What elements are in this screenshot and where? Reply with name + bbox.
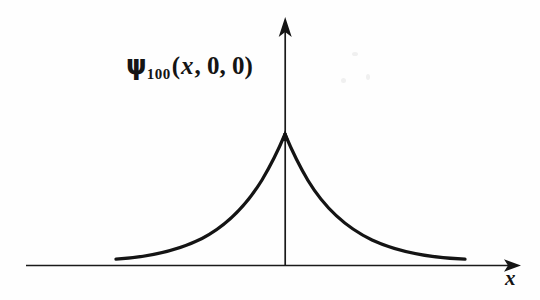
psi-symbol: ψ (126, 50, 147, 80)
psi-subscript: 100 (147, 66, 171, 82)
wavefunction-curve-left (116, 134, 285, 259)
psi-arg-variable-x: x (181, 52, 194, 79)
x-axis-label: x (505, 268, 516, 289)
wavefunction-plot (0, 0, 540, 300)
wavefunction-curve-group (116, 132, 465, 260)
psi-arg-open-paren: ( (172, 52, 180, 79)
x-axis-group (26, 259, 521, 272)
psi-arg-remainder: , 0, 0) (194, 52, 252, 79)
wavefunction-curve-right (285, 134, 465, 259)
figure-canvas: ψ100(x, 0, 0) x (0, 0, 540, 300)
wavefunction-label: ψ100(x, 0, 0) (126, 52, 253, 82)
